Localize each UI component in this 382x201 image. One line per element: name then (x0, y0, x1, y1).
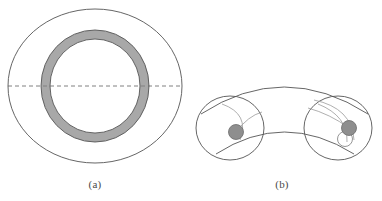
figure-canvas (0, 0, 382, 201)
panel-b-caption: (b) (262, 178, 302, 190)
panel-a-caption: (a) (75, 178, 115, 190)
right-end-disk (304, 96, 372, 160)
right-marker-disk (342, 121, 357, 136)
figure-container: (a) (b) (0, 0, 382, 201)
panel-b-group (196, 87, 372, 160)
panel-a-group (8, 9, 182, 163)
left-marker-disk (229, 125, 244, 140)
